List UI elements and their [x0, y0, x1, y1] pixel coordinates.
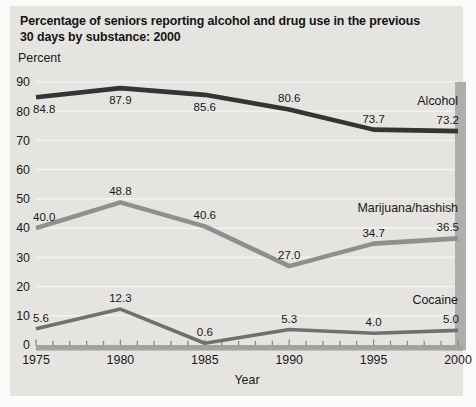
- chart-title-line1: Percentage of seniors reporting alcohol …: [20, 14, 420, 28]
- y-tick-label: 40: [16, 221, 30, 235]
- alcohol-value-label: 85.6: [194, 101, 216, 113]
- x-axis-bar: [36, 345, 463, 351]
- cocaine-value-label: 0.6: [197, 326, 213, 338]
- cocaine-series-label: Cocaine: [413, 293, 459, 307]
- y-tick-label: 60: [16, 163, 30, 177]
- y-tick-label: 50: [16, 192, 30, 206]
- marijuana-hashish-value-label: 40.6: [194, 209, 216, 221]
- cocaine-value-label: 4.0: [366, 316, 382, 328]
- marijuana-hashish-value-label: 36.5: [437, 221, 459, 233]
- y-tick-label: 30: [16, 251, 30, 265]
- y-tick-label: 80: [16, 105, 30, 119]
- x-tick-label: 1985: [191, 353, 219, 367]
- alcohol-value-label: 87.9: [109, 94, 131, 106]
- alcohol-line: [36, 88, 458, 131]
- alcohol-value-label: 80.6: [278, 92, 300, 104]
- y-tick-label: 10: [16, 309, 30, 323]
- alcohol-value-label: 84.8: [33, 103, 55, 115]
- marijuana-hashish-value-label: 27.0: [278, 249, 300, 261]
- x-tick-label: 1990: [275, 353, 303, 367]
- y-tick-label: 20: [16, 280, 30, 294]
- alcohol-series-label: Alcohol: [417, 94, 458, 108]
- y-tick-label: 0: [23, 338, 30, 352]
- cocaine-value-label: 5.3: [281, 313, 297, 325]
- y-axis-unit-label: Percent: [18, 51, 61, 65]
- marijuana-hashish-value-label: 48.8: [109, 185, 131, 197]
- x-axis-title: Year: [234, 373, 259, 387]
- marijuana-hashish-value-label: 34.7: [362, 227, 384, 239]
- alcohol-value-label: 73.7: [362, 113, 384, 125]
- chart-title: Percentage of seniors reporting alcohol …: [20, 14, 440, 46]
- y-tick-label: 70: [16, 134, 30, 148]
- x-tick-label: 1980: [107, 353, 135, 367]
- x-tick-label: 2000: [444, 353, 472, 367]
- marijuana-hashish-series-label: Marijuana/hashish: [357, 201, 458, 215]
- line-chart-svg: 84.887.985.680.673.773.2Alcohol40.048.84…: [10, 66, 463, 396]
- alcohol-value-label: 73.2: [437, 114, 459, 126]
- cocaine-value-label: 5.6: [33, 312, 49, 324]
- cocaine-value-label: 5.0: [443, 313, 459, 325]
- cocaine-value-label: 12.3: [109, 292, 131, 304]
- x-tick-label: 1975: [22, 353, 50, 367]
- figure-panel: Percentage of seniors reporting alcohol …: [10, 6, 463, 396]
- x-tick-label: 1995: [360, 353, 388, 367]
- marijuana-hashish-value-label: 40.0: [33, 211, 55, 223]
- y-tick-label: 90: [16, 75, 30, 89]
- cocaine-line: [36, 309, 458, 343]
- chart-title-line2: 30 days by substance: 2000: [20, 30, 181, 44]
